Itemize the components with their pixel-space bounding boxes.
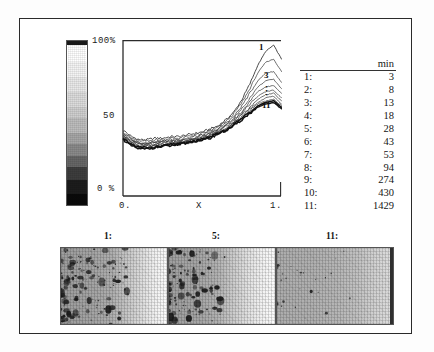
panel-speckle — [61, 308, 62, 311]
panel-speckle — [169, 286, 172, 292]
panel-speckle — [71, 277, 74, 281]
panel-speckle — [179, 279, 182, 283]
curve-annotation-second: 3 — [264, 70, 269, 80]
panel-speckle — [199, 261, 201, 264]
panel-speckle — [170, 301, 171, 303]
panel-speckle — [318, 292, 319, 293]
panel-speckle — [169, 248, 170, 249]
panel-speckle — [173, 285, 174, 286]
panel-speckle — [194, 255, 196, 257]
panel-speckle — [325, 277, 326, 279]
panel-speckle — [97, 300, 99, 302]
panel-speckle — [97, 267, 99, 269]
legend-row: 8:94 — [300, 161, 396, 174]
legend-header-row: min — [300, 58, 396, 71]
panel-speckle — [303, 272, 304, 274]
legend-row-index: 2: — [300, 84, 336, 97]
panel-speckle — [127, 293, 130, 295]
legend-index-header — [300, 58, 336, 71]
curve-group — [124, 45, 282, 149]
panel-speckle — [210, 257, 211, 258]
legend-table-body: 1:32:83:134:185:286:437:538:949:27410:43… — [300, 71, 396, 213]
legend-table-element: min 1:32:83:134:185:286:437:538:949:2741… — [300, 58, 396, 213]
legend-row: 1:3 — [300, 71, 396, 84]
panel-speckle — [77, 276, 83, 280]
panel-speckle — [175, 275, 176, 276]
panel-speckle — [175, 248, 177, 250]
panel-speckle — [112, 276, 113, 277]
panel-speckle — [191, 296, 195, 299]
panel-speckle — [107, 261, 112, 265]
panel-speckle — [310, 290, 313, 294]
colorbar-top-cap — [67, 41, 87, 45]
panel-speckle — [76, 314, 79, 316]
panel-speckle — [184, 269, 186, 271]
legend-row: 10:430 — [300, 187, 396, 200]
legend-row-index: 1: — [300, 71, 336, 84]
panel-speckle — [192, 311, 193, 312]
panel-speckle — [79, 290, 81, 293]
panel-speckle — [173, 275, 176, 278]
panel-speckle — [189, 294, 192, 296]
panel-speckle — [84, 287, 88, 290]
panel-speckle — [178, 293, 185, 300]
panel-speckle — [175, 300, 177, 301]
panel-speckle — [188, 259, 191, 261]
panel-speckle — [74, 275, 77, 277]
panel-speckle — [179, 265, 184, 268]
panel-speckle — [90, 256, 91, 257]
panel-speckle — [175, 303, 177, 305]
legend-row-index: 11: — [300, 200, 336, 213]
panel-speckle — [64, 285, 65, 286]
x-axis-max-label: 1. — [270, 201, 282, 211]
legend-row: 7:53 — [300, 148, 396, 161]
panel-speckle — [195, 308, 198, 310]
panel-speckle — [78, 256, 79, 257]
panel-speckle — [200, 249, 201, 250]
sample-image-panel-3 — [276, 247, 394, 325]
legend-table-head: min — [300, 58, 396, 71]
legend-row-index: 3: — [300, 97, 336, 110]
panel-speckle — [281, 305, 282, 307]
panel-caption-2: 5: — [212, 231, 220, 241]
panel-speckle — [315, 279, 316, 281]
panel-speckle — [343, 250, 345, 251]
panel-speckle — [299, 288, 300, 289]
panel-speckle — [92, 299, 93, 300]
curve-2 — [124, 59, 282, 142]
panel-speckle — [334, 252, 335, 253]
legend-row: 4:18 — [300, 110, 396, 123]
panel-speckle — [278, 304, 279, 305]
panel-speckle — [66, 312, 71, 315]
panel-speckle — [186, 292, 190, 296]
panel-speckle — [61, 318, 68, 322]
panel-speckle — [71, 271, 73, 274]
panel-speckle — [73, 284, 78, 288]
curve-11 — [124, 103, 282, 150]
sample-image-panel-1 — [60, 247, 168, 325]
legend-row-index: 10: — [300, 187, 336, 200]
panel-speckle — [63, 305, 64, 307]
panel-speckle — [198, 310, 204, 314]
panel-speckle — [86, 262, 88, 265]
panel-speckle — [171, 264, 173, 265]
panel-speckle — [118, 311, 121, 314]
panel-speckle — [169, 293, 173, 298]
panel-speckle — [125, 266, 128, 268]
panel-speckle — [196, 253, 197, 254]
legend-row-index: 9: — [300, 174, 336, 187]
panel-speckle — [82, 306, 83, 307]
panel-speckle — [183, 305, 185, 307]
panel-speckle — [169, 268, 170, 269]
panel-speckle — [114, 276, 116, 278]
panel-speckle — [110, 287, 111, 288]
panel-speckle — [187, 270, 189, 272]
panel-speckle — [113, 283, 114, 284]
panel-speckle — [171, 304, 172, 305]
panel-speckle — [196, 282, 197, 284]
legend-row-value: 13 — [336, 97, 396, 110]
panel-speckle — [113, 285, 114, 286]
panel-speckle — [290, 266, 291, 267]
panel-speckle — [91, 320, 92, 321]
figure-root: 100% 50 0 % 0. X 1. 1 3 ··· 11 min 1:32:… — [0, 0, 434, 352]
